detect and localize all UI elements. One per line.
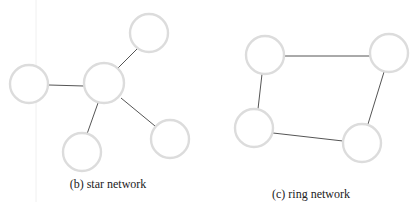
ring-network-diagram: (c) ring network [235, 34, 408, 201]
star-edge-hub-left [49, 85, 84, 86]
ring-node-bottom-left [235, 109, 273, 147]
ring-node-top-right [370, 34, 408, 72]
star-node-left [10, 65, 48, 103]
star-node-top-right [130, 14, 168, 52]
ring-node-bottom-right [343, 124, 381, 162]
ring-edge-bottom-right-bottom-left [273, 133, 343, 141]
star-edge-hub-bottom-right [121, 98, 155, 126]
star-caption: (b) star network [70, 177, 147, 191]
ring-node-top-left [246, 36, 284, 74]
star-node-hub [84, 63, 124, 103]
star-edge-hub-top-right [117, 49, 137, 69]
ring-edge-bottom-left-top-left [258, 74, 262, 109]
star-network-diagram: (b) star network [10, 14, 189, 191]
ring-caption: (c) ring network [272, 187, 350, 201]
ring-edge-top-right-bottom-right [368, 72, 384, 124]
network-diagrams: (b) star network(c) ring network [0, 0, 418, 202]
star-edge-hub-bottom [87, 103, 98, 134]
star-node-bottom-right [151, 120, 189, 158]
star-node-bottom [63, 133, 101, 171]
